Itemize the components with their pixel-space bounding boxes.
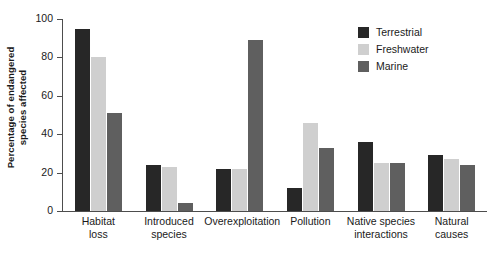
- legend: TerrestrialFreshwaterMarine: [358, 24, 429, 75]
- y-axis-title: Percentage of endangered species affecte…: [0, 0, 34, 215]
- x-axis-label: Habitatloss: [63, 215, 134, 241]
- legend-item-marine[interactable]: Marine: [358, 58, 429, 75]
- y-axis-line: [62, 19, 63, 212]
- x-axis-label-line2: interactions: [346, 228, 417, 241]
- bar-terrestrial-pollution: [287, 188, 302, 211]
- y-axis-tick: 60: [57, 96, 62, 97]
- bar-group: [75, 19, 122, 211]
- x-axis-label-line1: Pollution: [290, 215, 330, 227]
- y-axis-tick: 20: [57, 173, 62, 174]
- x-axis-label-line2: causes: [416, 228, 487, 241]
- bar-freshwater-overexploitation: [232, 169, 247, 211]
- bar-terrestrial-native-species: [358, 142, 373, 211]
- bar-group: [216, 19, 263, 211]
- y-axis-tick-label: 80: [41, 50, 53, 63]
- y-axis-tick: 80: [57, 57, 62, 58]
- y-axis-tick-label: 40: [41, 127, 53, 140]
- bar-terrestrial-introduced: [146, 165, 161, 211]
- bar-marine-overexploitation: [248, 40, 263, 211]
- legend-item-terrestrial[interactable]: Terrestrial: [358, 24, 429, 41]
- legend-label-freshwater: Freshwater: [376, 43, 429, 56]
- bar-chart: Percentage of endangered species affecte…: [0, 0, 492, 254]
- x-axis-label: Pollution: [275, 215, 346, 228]
- y-axis-title-line2: species affected: [17, 47, 29, 169]
- legend-item-freshwater[interactable]: Freshwater: [358, 41, 429, 58]
- y-axis-title-line1: Percentage of endangered: [6, 47, 17, 169]
- bar-terrestrial-overexploitation: [216, 169, 231, 211]
- legend-swatch-terrestrial: [358, 27, 369, 38]
- x-axis-label: Introducedspecies: [134, 215, 205, 241]
- bar-marine-introduced: [178, 203, 193, 211]
- x-axis-line: [62, 211, 487, 212]
- bar-marine-pollution: [319, 148, 334, 211]
- legend-swatch-marine: [358, 61, 369, 72]
- bar-freshwater-pollution: [303, 123, 318, 211]
- bar-terrestrial-habitat: [75, 29, 90, 211]
- y-axis-tick: 40: [57, 134, 62, 135]
- bar-marine-natural: [460, 165, 475, 211]
- y-axis-tick-label: 60: [41, 89, 53, 102]
- bar-freshwater-native-species: [374, 163, 389, 211]
- bar-group: [428, 19, 475, 211]
- legend-swatch-freshwater: [358, 44, 369, 55]
- bar-freshwater-habitat: [91, 57, 106, 211]
- y-axis-tick-label: 0: [47, 204, 53, 217]
- bar-freshwater-natural: [444, 159, 459, 211]
- y-axis-tick-label: 20: [41, 166, 53, 179]
- x-axis-label-line1: Natural: [435, 215, 469, 227]
- bar-freshwater-introduced: [162, 167, 177, 211]
- x-axis-label: Naturalcauses: [416, 215, 487, 241]
- bar-marine-habitat: [107, 113, 122, 211]
- x-axis-label: Overexploitation: [204, 215, 275, 228]
- x-axis-label: Native speciesinteractions: [346, 215, 417, 241]
- x-axis-label-line1: Overexploitation: [204, 215, 280, 227]
- bar-marine-native-species: [390, 163, 405, 211]
- x-axis-label-line2: loss: [63, 228, 134, 241]
- bar-group: [287, 19, 334, 211]
- y-axis-tick-label: 100: [35, 12, 53, 25]
- y-axis-tick: 0: [57, 211, 62, 212]
- legend-label-terrestrial: Terrestrial: [376, 26, 422, 39]
- x-axis-label-line1: Habitat: [82, 215, 115, 227]
- bar-terrestrial-natural: [428, 155, 443, 211]
- bar-group: [146, 19, 193, 211]
- y-axis-tick: 100: [57, 19, 62, 20]
- x-axis-label-line2: species: [134, 228, 205, 241]
- x-axis-label-line1: Introduced: [144, 215, 194, 227]
- x-axis-label-line1: Native species: [347, 215, 415, 227]
- legend-label-marine: Marine: [376, 60, 408, 73]
